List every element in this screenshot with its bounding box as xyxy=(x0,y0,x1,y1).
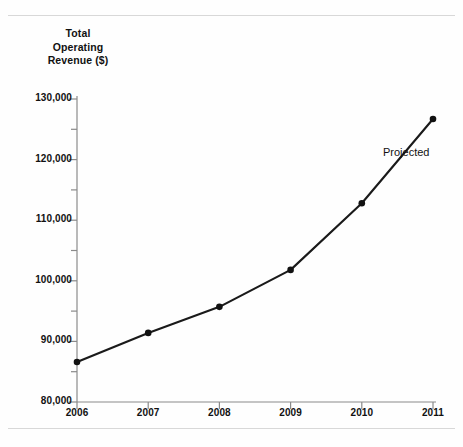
line-chart-figure: Total Operating Revenue ($) 80,00090,000… xyxy=(0,0,463,447)
x-axis-tick-labels: 200620072008200920102011 xyxy=(0,0,463,447)
chart-page: Total Operating Revenue ($) 80,00090,000… xyxy=(0,0,463,447)
x-axis-tick-label: 2006 xyxy=(47,407,107,418)
x-axis-tick-label: 2009 xyxy=(261,407,321,418)
x-axis-tick-label: 2008 xyxy=(189,407,249,418)
x-axis-tick-label: 2010 xyxy=(332,407,392,418)
x-axis-tick-label: 2007 xyxy=(118,407,178,418)
projected-annotation: Projected xyxy=(383,146,429,158)
x-axis-tick-label: 2011 xyxy=(403,407,463,418)
